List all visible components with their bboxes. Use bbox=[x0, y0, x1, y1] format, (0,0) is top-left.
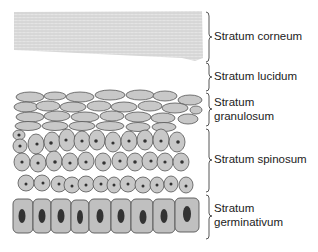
stratum-germinativum-cells bbox=[13, 198, 199, 233]
stratum-spinosum-cells bbox=[13, 129, 193, 193]
label-stratum-germinativum-line2: germinativum bbox=[214, 216, 283, 229]
label-stratum-granulosum-line2: granulosum bbox=[214, 110, 274, 123]
label-stratum-corneum: Stratum corneum bbox=[214, 30, 302, 43]
layer-braces bbox=[206, 12, 212, 239]
brace-lucidum bbox=[206, 63, 212, 91]
label-stratum-spinosum: Stratum spinosum bbox=[214, 153, 307, 166]
brace-granulosum bbox=[206, 93, 212, 126]
brace-corneum bbox=[206, 12, 212, 62]
brace-germinativum bbox=[206, 195, 212, 239]
stratum-granulosum-cells bbox=[14, 90, 202, 132]
label-stratum-lucidum: Stratum lucidum bbox=[214, 70, 297, 83]
brace-spinosum bbox=[206, 129, 212, 192]
stratum-corneum-region bbox=[14, 11, 203, 61]
label-stratum-granulosum-line1: Stratum bbox=[214, 96, 254, 109]
label-stratum-germinativum-line1: Stratum bbox=[214, 202, 254, 215]
